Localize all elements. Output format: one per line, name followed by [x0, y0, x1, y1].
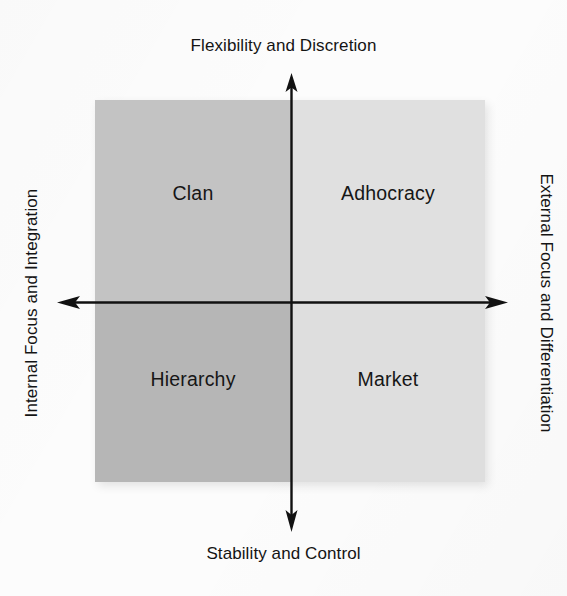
quadrant-matrix: Clan Adhocracy Hierarchy Market [95, 100, 485, 482]
quadrant-market[interactable]: Market [291, 302, 485, 482]
quadrant-adhocracy-label: Adhocracy [291, 182, 485, 205]
quadrant-clan[interactable]: Clan [95, 100, 291, 302]
quadrant-market-label: Market [291, 368, 485, 391]
quadrant-clan-label: Clan [95, 182, 291, 205]
quadrant-hierarchy-label: Hierarchy [95, 368, 291, 391]
axis-label-left: Internal Focus and Integration [22, 153, 42, 453]
arrow-left-icon [57, 296, 80, 309]
arrow-up-icon [286, 73, 298, 92]
quadrant-adhocracy[interactable]: Adhocracy [291, 100, 485, 302]
figure-canvas: Clan Adhocracy Hierarchy Market Flexibil… [0, 0, 567, 596]
quadrant-hierarchy[interactable]: Hierarchy [95, 302, 291, 482]
axis-label-right: External Focus and Differentiation [536, 123, 556, 483]
axis-label-top: Flexibility and Discretion [0, 36, 567, 56]
arrow-down-icon [286, 510, 298, 532]
arrow-right-icon [485, 296, 508, 309]
axis-label-bottom: Stability and Control [0, 544, 567, 564]
